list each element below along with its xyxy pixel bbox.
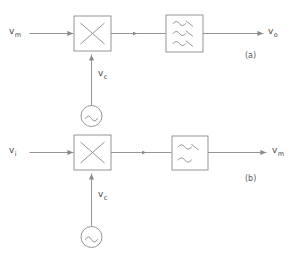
panel-a-multiplier-block xyxy=(74,16,111,51)
panel-b-output-label-base: v xyxy=(272,145,277,155)
panel-a-carrier-label-sub: c xyxy=(104,73,108,81)
panel-a-input-label-sub: m xyxy=(15,31,21,39)
figure-canvas: vm vo vc (a) vi vm vc (b) xyxy=(0,0,301,254)
panel-a-input-label-base: v xyxy=(9,26,14,36)
panel-b-carrier-label: vc xyxy=(98,190,107,199)
panel-b-multiplier-block xyxy=(74,135,111,170)
panel-b-output-label: vm xyxy=(272,146,284,155)
panel-a-output-label: vo xyxy=(268,27,277,36)
panel-b-oscillator xyxy=(81,227,102,248)
panel-a-input-label: vm xyxy=(9,27,21,36)
panel-a-filter-box xyxy=(166,15,203,52)
panel-a-tag: (a) xyxy=(245,52,256,60)
panel-b-filter-box xyxy=(172,136,208,170)
panel-a-carrier-label: vc xyxy=(98,69,107,78)
diagram-vector-layer xyxy=(0,0,301,254)
panel-b-carrier-label-base: v xyxy=(98,189,103,199)
panel-a-output-label-sub: o xyxy=(274,31,278,39)
panel-a-filter-block xyxy=(166,15,203,52)
panel-b-tag: (b) xyxy=(245,175,256,183)
panel-a-wiring xyxy=(30,34,263,108)
panel-b-output-label-sub: m xyxy=(278,150,284,158)
panel-a-output-label-base: v xyxy=(268,26,273,36)
panel-b-input-label-sub: i xyxy=(15,150,17,158)
panel-a-carrier-label-base: v xyxy=(98,68,103,78)
panel-b-filter-block xyxy=(172,136,208,170)
panel-a-oscillator-circle xyxy=(81,106,102,127)
panel-a-oscillator xyxy=(81,106,102,127)
panel-b-input-label: vi xyxy=(9,146,16,155)
panel-b-wiring xyxy=(30,153,266,229)
panel-b-carrier-label-sub: c xyxy=(104,194,108,202)
panel-b-oscillator-circle xyxy=(81,227,102,248)
panel-b-input-label-base: v xyxy=(9,145,14,155)
